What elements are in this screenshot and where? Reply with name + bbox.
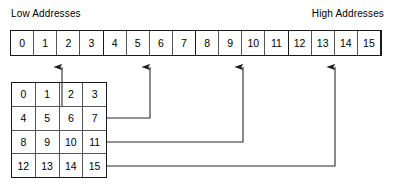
low-addresses-label: Low Addresses xyxy=(11,8,81,20)
address-cell-15: 15 xyxy=(358,31,381,55)
matrix-cell-8: 8 xyxy=(12,131,36,154)
matrix-cell-10: 10 xyxy=(60,131,84,154)
two-dimensional-array-grid: 0123456789101112131415 xyxy=(11,82,107,178)
matrix-cell-3: 3 xyxy=(83,83,106,106)
matrix-row-0: 0123 xyxy=(12,83,106,107)
matrix-cell-2: 2 xyxy=(60,83,84,106)
address-cell-5: 5 xyxy=(127,31,150,55)
address-cell-4: 4 xyxy=(104,31,127,55)
address-cell-2: 2 xyxy=(57,31,80,55)
matrix-cell-9: 9 xyxy=(36,131,60,154)
high-addresses-label: High Addresses xyxy=(312,8,384,20)
row-1-connector xyxy=(107,67,150,118)
address-cell-9: 9 xyxy=(219,31,242,55)
address-cell-14: 14 xyxy=(335,31,358,55)
matrix-row-2: 891011 xyxy=(12,131,106,155)
matrix-cell-14: 14 xyxy=(60,154,84,177)
matrix-cell-12: 12 xyxy=(12,154,36,177)
matrix-cell-1: 1 xyxy=(36,83,60,106)
address-cell-6: 6 xyxy=(150,31,173,55)
matrix-cell-15: 15 xyxy=(83,154,106,177)
matrix-cell-6: 6 xyxy=(60,107,84,130)
matrix-cell-4: 4 xyxy=(12,107,36,130)
address-cell-1: 1 xyxy=(34,31,57,55)
linear-memory-address-bar: 0123456789101112131415 xyxy=(10,30,382,56)
address-cell-12: 12 xyxy=(289,31,312,55)
matrix-cell-5: 5 xyxy=(36,107,60,130)
address-cell-0: 0 xyxy=(11,31,34,55)
matrix-cell-13: 13 xyxy=(36,154,60,177)
address-cell-10: 10 xyxy=(242,31,265,55)
matrix-row-1: 4567 xyxy=(12,107,106,131)
address-cell-8: 8 xyxy=(196,31,219,55)
address-cell-7: 7 xyxy=(173,31,196,55)
memory-layout-diagram: Low Addresses High Addresses 01234567891… xyxy=(0,0,395,187)
matrix-cell-7: 7 xyxy=(83,107,106,130)
row-2-connector xyxy=(107,67,243,142)
matrix-cell-0: 0 xyxy=(12,83,36,106)
row-3-connector xyxy=(107,67,335,166)
matrix-row-3: 12131415 xyxy=(12,154,106,177)
address-cell-13: 13 xyxy=(312,31,335,55)
address-cell-11: 11 xyxy=(265,31,288,55)
address-cell-3: 3 xyxy=(80,31,103,55)
matrix-cell-11: 11 xyxy=(83,131,106,154)
